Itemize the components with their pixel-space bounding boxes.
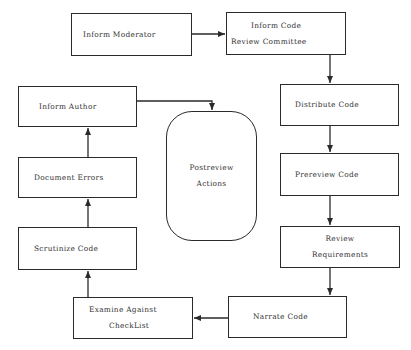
node-postreview-actions: Postreview Actions <box>166 111 257 241</box>
node-label-line-2: Actions <box>197 176 227 192</box>
node-document-errors: Document Errors <box>18 157 137 198</box>
node-scrutinize-code: Scrutinize Code <box>18 227 137 270</box>
flowchart-canvas: Inform Moderator Inform Code Review Comm… <box>0 0 411 350</box>
node-label-line-2: Review Committee <box>231 34 307 50</box>
node-review-requirements: Review Requirements <box>280 226 400 268</box>
node-examine-against-checklist: Examine Against CheckList <box>73 297 193 339</box>
node-label-line-1: Examine Against <box>89 302 157 318</box>
node-label: Prereview Code <box>295 167 359 183</box>
node-narrate-code: Narrate Code <box>228 296 347 338</box>
node-label: Narrate Code <box>253 309 308 325</box>
edge-author-to-postreview <box>137 101 212 110</box>
node-label-line-2: Requirements <box>312 247 368 263</box>
node-label-line-1: Postreview <box>189 160 233 176</box>
node-label-line-1: Inform Code <box>231 18 301 34</box>
node-label: Distribute Code <box>295 97 359 113</box>
node-label: Inform Author <box>39 99 96 115</box>
node-label: Inform Moderator <box>83 27 156 43</box>
node-label-line-2: CheckList <box>89 318 149 334</box>
node-distribute-code: Distribute Code <box>280 84 399 126</box>
node-label: Scrutinize Code <box>34 241 98 257</box>
node-label-line-1: Review <box>326 231 355 247</box>
node-inform-code-review-committee: Inform Code Review Committee <box>226 12 346 55</box>
node-inform-author: Inform Author <box>18 86 137 127</box>
node-prereview-code: Prereview Code <box>280 153 399 196</box>
node-inform-moderator: Inform Moderator <box>71 13 192 56</box>
node-label: Document Errors <box>34 170 103 186</box>
